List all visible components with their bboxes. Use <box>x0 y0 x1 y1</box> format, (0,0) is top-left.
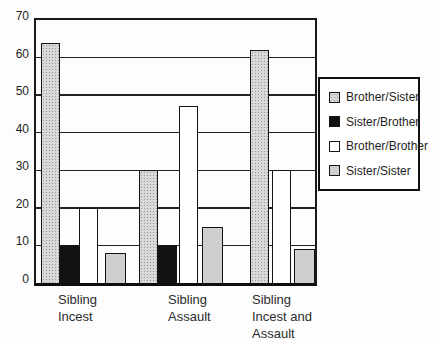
x-category-label-sibling-incest-and-assault: Sibling Incest and Assault <box>252 291 312 342</box>
legend-label-brother-brother: Brother/Brother <box>346 139 428 153</box>
bar-sister-sister-sibling-incest-and-assault <box>294 249 315 283</box>
legend-label-sister-sister: Sister/Sister <box>346 164 411 178</box>
legend-swatch-sister-sister-icon <box>329 165 340 176</box>
legend-swatch-brother-brother-icon <box>329 141 340 152</box>
bar-brother-brother-sibling-incest <box>79 208 98 283</box>
y-tick-label-50: 50 <box>0 83 29 99</box>
y-tick-label-40: 40 <box>0 121 29 137</box>
legend-entry-brother-brother: Brother/Brother <box>329 139 414 153</box>
legend-label-sister-brother: Sister/Brother <box>346 115 419 129</box>
plot-area <box>34 18 317 286</box>
legend-swatch-brother-sister-icon <box>329 92 340 103</box>
legend-entry-sister-brother: Sister/Brother <box>329 115 414 129</box>
gridline-60 <box>36 57 315 59</box>
y-tick-label-20: 20 <box>0 196 29 212</box>
legend-swatch-sister-brother-icon <box>329 116 340 127</box>
x-category-label-sibling-assault: Sibling Assault <box>168 291 211 325</box>
gridline-50 <box>36 94 315 96</box>
bar-sister-sister-sibling-incest <box>105 253 126 283</box>
bar-sister-brother-sibling-incest <box>60 245 79 283</box>
bar-brother-sister-sibling-incest-and-assault <box>250 50 269 283</box>
bar-sister-sister-sibling-assault <box>202 227 223 283</box>
y-tick-label-60: 60 <box>0 46 29 62</box>
x-category-label-sibling-incest: Sibling Incest <box>58 291 97 325</box>
legend-label-brother-sister: Brother/Sister <box>346 90 419 104</box>
y-tick-label-10: 10 <box>0 233 29 249</box>
y-tick-label-70: 70 <box>0 8 29 24</box>
gridline-40 <box>36 132 315 134</box>
legend-entry-brother-sister: Brother/Sister <box>329 90 414 104</box>
bar-sister-brother-sibling-assault <box>158 245 177 283</box>
chart-figure: 010203040506070 Sibling IncestSibling As… <box>0 0 440 344</box>
y-tick-label-0: 0 <box>0 271 29 287</box>
bar-brother-brother-sibling-incest-and-assault <box>272 170 291 283</box>
legend-entry-sister-sister: Sister/Sister <box>329 164 414 178</box>
y-tick-label-30: 30 <box>0 158 29 174</box>
bar-brother-sister-sibling-assault <box>139 170 158 283</box>
bar-brother-brother-sibling-assault <box>179 106 198 283</box>
legend-box: Brother/SisterSister/BrotherBrother/Brot… <box>318 77 420 191</box>
bar-brother-sister-sibling-incest <box>41 43 60 283</box>
